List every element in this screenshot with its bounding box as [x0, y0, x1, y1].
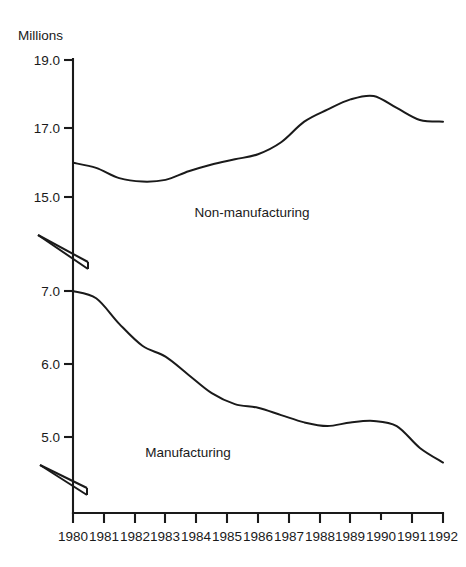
xtick-label-1991: 1991 — [397, 529, 427, 544]
ytick-label-5: 5.0 — [41, 430, 60, 445]
xtick-label-1986: 1986 — [243, 529, 273, 544]
series-line-non-manufacturing — [73, 96, 443, 182]
xtick-label-1982: 1982 — [120, 529, 150, 544]
xtick-label-1988: 1988 — [305, 529, 335, 544]
xtick-label-1984: 1984 — [181, 529, 212, 544]
series-annotation-non-manufacturing: Non-manufacturing — [195, 205, 310, 220]
lower-panel-y-ticks: 7.0 6.0 5.0 — [41, 284, 73, 445]
xtick-label-1985: 1985 — [212, 529, 242, 544]
chart-container: Millions 19.0 17.0 15.0 7.0 6.0 5.0 — [0, 0, 466, 567]
series-line-manufacturing — [73, 291, 443, 463]
employment-line-chart: Millions 19.0 17.0 15.0 7.0 6.0 5.0 — [0, 0, 466, 567]
xtick-label-1983: 1983 — [150, 529, 180, 544]
ytick-label-17: 17.0 — [34, 121, 60, 136]
xtick-label-1990: 1990 — [366, 529, 396, 544]
ytick-label-19: 19.0 — [34, 53, 60, 68]
xtick-label-1989: 1989 — [335, 529, 365, 544]
ytick-label-7: 7.0 — [41, 284, 60, 299]
upper-panel-y-ticks: 19.0 17.0 15.0 — [34, 53, 73, 205]
axis-break-upper — [38, 235, 88, 269]
axis-break-lower — [40, 465, 87, 495]
ytick-label-6: 6.0 — [41, 357, 60, 372]
ytick-label-15: 15.0 — [34, 190, 60, 205]
x-axis: 1980 1981 1982 1983 1984 1985 1986 1987 … — [58, 513, 458, 544]
series-annotation-manufacturing: Manufacturing — [145, 445, 231, 460]
units-label: Millions — [18, 28, 63, 43]
xtick-label-1981: 1981 — [89, 529, 119, 544]
xtick-label-1980: 1980 — [58, 529, 88, 544]
xtick-label-1992: 1992 — [428, 529, 458, 544]
xtick-label-1987: 1987 — [274, 529, 304, 544]
